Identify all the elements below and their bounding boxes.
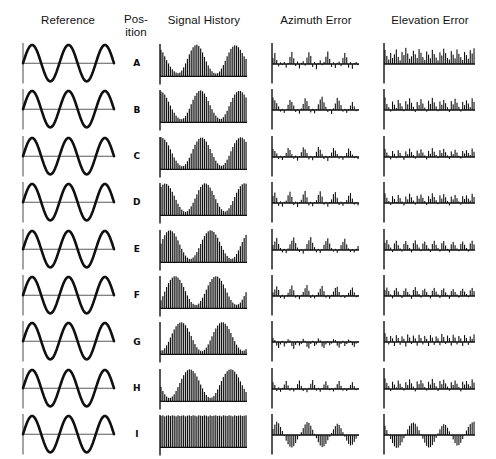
elevation-error-plot (381, 365, 477, 411)
column-header-elevation-error: Elevation Error (380, 14, 480, 27)
position-label-cell: I (122, 411, 152, 457)
figure-row: B (0, 86, 496, 132)
signal-history-plot (157, 411, 249, 457)
elevation-error-plot (381, 411, 477, 457)
signal-history-plot (157, 40, 249, 86)
elevation-error-plot (381, 318, 477, 364)
reference-waveform-plot (20, 411, 116, 457)
signal-history-plot (157, 272, 249, 318)
column-header-row: Reference Pos- ition Signal History Azim… (0, 0, 496, 40)
reference-waveform-plot (20, 226, 116, 272)
position-label-cell: D (122, 179, 152, 225)
azimuth-error-plot (269, 411, 361, 457)
azimuth-error-plot (269, 179, 361, 225)
azimuth-error-plot (269, 272, 361, 318)
elevation-error-plot (381, 226, 477, 272)
position-label: D (122, 179, 152, 225)
reference-waveform-plot (20, 133, 116, 179)
position-label-cell: B (122, 86, 152, 132)
figure-row: C (0, 133, 496, 179)
signal-history-plot (157, 86, 249, 132)
reference-waveform-plot (20, 272, 116, 318)
azimuth-error-plot (269, 86, 361, 132)
reference-waveform-plot (20, 365, 116, 411)
position-label: I (122, 411, 152, 457)
figure-row: G (0, 318, 496, 364)
column-header-position: Pos- ition (118, 13, 154, 38)
azimuth-error-plot (269, 40, 361, 86)
reference-waveform-plot (20, 179, 116, 225)
position-label-cell: F (122, 272, 152, 318)
elevation-error-plot (381, 179, 477, 225)
position-label: B (122, 86, 152, 132)
signal-history-plot (157, 133, 249, 179)
column-header-signal-history: Signal History (156, 14, 252, 27)
column-header-azimuth-error: Azimuth Error (268, 14, 364, 27)
position-label: A (122, 40, 152, 86)
azimuth-error-plot (269, 133, 361, 179)
position-label-cell: H (122, 365, 152, 411)
signal-history-plot (157, 179, 249, 225)
reference-waveform-plot (20, 40, 116, 86)
position-label-cell: G (122, 318, 152, 364)
position-label-cell: A (122, 40, 152, 86)
position-label: H (122, 365, 152, 411)
signal-history-plot (157, 365, 249, 411)
column-header-reference: Reference (20, 14, 116, 27)
azimuth-error-plot (269, 318, 361, 364)
figure-row: D (0, 179, 496, 225)
azimuth-error-plot (269, 365, 361, 411)
position-label: E (122, 226, 152, 272)
figure-row: H (0, 365, 496, 411)
elevation-error-plot (381, 272, 477, 318)
azimuth-error-plot (269, 226, 361, 272)
figure-row: E (0, 226, 496, 272)
reference-waveform-plot (20, 86, 116, 132)
elevation-error-plot (381, 86, 477, 132)
figure-row: F (0, 272, 496, 318)
signal-history-plot (157, 226, 249, 272)
elevation-error-plot (381, 133, 477, 179)
figure-rows: ABCDEFGHI (0, 40, 496, 459)
position-label: C (122, 133, 152, 179)
position-label-cell: E (122, 226, 152, 272)
signal-history-figure: Reference Pos- ition Signal History Azim… (0, 0, 496, 459)
figure-row: A (0, 40, 496, 86)
position-label: F (122, 272, 152, 318)
elevation-error-plot (381, 40, 477, 86)
position-label: G (122, 318, 152, 364)
position-label-cell: C (122, 133, 152, 179)
signal-history-plot (157, 318, 249, 364)
reference-waveform-plot (20, 318, 116, 364)
figure-row: I (0, 411, 496, 457)
